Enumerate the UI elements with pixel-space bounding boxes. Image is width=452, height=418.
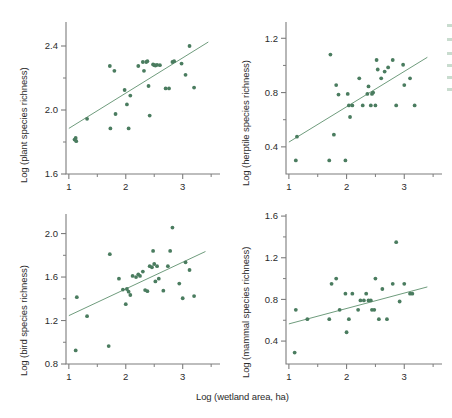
x-tick-label: 2: [344, 181, 349, 192]
data-point: [293, 351, 297, 355]
y-tick-label: 0.8: [265, 294, 278, 305]
data-point: [334, 277, 338, 281]
data-point: [147, 84, 151, 88]
data-point: [184, 260, 188, 264]
panel-bird-species-richness: 0.81.21.62.0123 Log (bird species richne…: [0, 200, 226, 390]
data-point: [192, 86, 196, 90]
data-point: [141, 270, 145, 274]
y-axis-label-plant: Log (plant species richness): [18, 68, 29, 183]
edge-artifact-6: [447, 88, 452, 91]
data-point: [172, 59, 176, 63]
data-point: [350, 292, 354, 296]
data-point: [125, 103, 129, 107]
y-tick-label: 0.8: [265, 87, 278, 98]
data-point: [398, 300, 402, 304]
data-point: [391, 282, 395, 286]
data-point: [379, 76, 383, 80]
plot-herptile: 0.40.81.2123: [226, 0, 452, 200]
y-tick-label: 1.2: [265, 33, 278, 44]
data-point: [329, 53, 333, 57]
axis-spines: [66, 214, 220, 364]
y-tick-label: 1.6: [265, 210, 278, 221]
data-point: [410, 292, 414, 296]
data-point: [401, 63, 405, 67]
panel-mammal-species-richness: 0.40.81.21.6123 Log (mammal species rich…: [226, 200, 452, 390]
data-point: [330, 282, 334, 286]
plot-plant: 1.62.02.4123: [0, 0, 226, 200]
data-point: [124, 302, 128, 306]
data-point: [386, 66, 390, 70]
data-point: [344, 292, 348, 296]
data-point: [348, 115, 352, 119]
y-tick-label: 1.2: [45, 315, 58, 326]
data-point: [131, 274, 135, 278]
panel-herptile-species-richness: 0.40.81.2123 Log (herptile species richn…: [226, 0, 452, 200]
data-point: [74, 136, 78, 140]
x-tick-label: 2: [344, 371, 349, 382]
data-point: [74, 139, 78, 143]
x-tick-label: 2: [123, 371, 128, 382]
data-point: [136, 64, 140, 68]
data-point: [153, 279, 157, 283]
data-point: [294, 159, 298, 163]
regression-line: [289, 57, 427, 142]
data-point: [327, 159, 331, 163]
y-tick-label: 1.6: [45, 271, 58, 282]
data-point: [123, 88, 127, 92]
data-point: [108, 64, 112, 68]
data-point: [146, 289, 150, 293]
data-point: [402, 282, 406, 286]
data-point: [344, 159, 348, 163]
data-point: [385, 317, 389, 321]
x-tick-label: 1: [66, 181, 71, 192]
data-point: [127, 126, 131, 130]
data-point: [359, 299, 363, 303]
data-point: [374, 104, 378, 108]
data-point: [85, 314, 89, 318]
data-point: [141, 60, 145, 64]
data-point: [394, 240, 398, 244]
data-point: [167, 87, 171, 91]
data-point: [294, 308, 298, 312]
data-point: [146, 59, 150, 63]
data-point: [356, 308, 360, 312]
data-point: [177, 282, 181, 286]
x-tick-label: 1: [66, 371, 71, 382]
data-point: [345, 330, 349, 334]
data-point: [332, 133, 336, 137]
data-point: [127, 290, 131, 294]
data-point: [85, 117, 89, 121]
data-point: [168, 249, 172, 253]
data-point: [364, 292, 368, 296]
edge-artifact-1: [447, 24, 452, 27]
y-tick-label: 2.0: [45, 228, 58, 239]
y-tick-label: 1.2: [265, 252, 278, 263]
data-point: [148, 114, 152, 118]
data-point: [347, 317, 351, 321]
data-point: [192, 294, 196, 298]
regression-line: [289, 287, 427, 324]
data-point: [75, 295, 79, 299]
data-point: [155, 264, 159, 268]
data-point: [108, 252, 112, 256]
x-tick-label: 1: [286, 371, 291, 382]
data-point: [142, 69, 146, 73]
y-tick-label: 0.4: [265, 141, 278, 152]
data-point: [402, 83, 406, 87]
figure-canvas: 1.62.02.4123 Log (plant species richness…: [0, 0, 452, 418]
y-tick-label: 2.4: [45, 40, 58, 51]
data-point: [338, 308, 342, 312]
data-point: [371, 91, 375, 95]
data-point: [327, 317, 331, 321]
y-axis-label-mammal: Log (mammal species richness): [240, 247, 251, 378]
data-point: [346, 92, 350, 96]
data-point: [164, 87, 168, 91]
edge-artifact-4: [447, 64, 452, 67]
plot-bird: 0.81.21.62.0123: [0, 200, 226, 390]
data-point: [394, 104, 398, 108]
data-point: [109, 126, 113, 130]
data-point: [181, 296, 185, 300]
y-axis-label-bird: Log (bird species richness): [18, 265, 29, 376]
data-point: [180, 62, 184, 66]
data-point: [408, 76, 412, 80]
